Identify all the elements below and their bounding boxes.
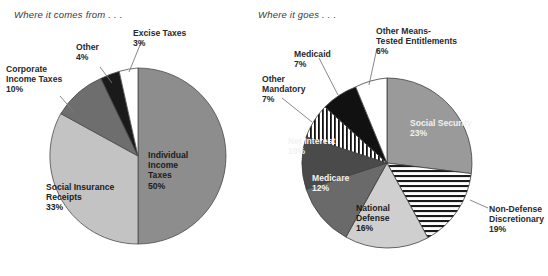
revenue-panel: Where it comes from . . . Corporate Inco… bbox=[0, 0, 274, 276]
revenue-label-other: Other 4% bbox=[76, 42, 99, 62]
spending-leader-non-defense bbox=[470, 200, 488, 208]
spending-label-other-mandatory: Other Mandatory 7% bbox=[262, 74, 305, 105]
spending-label-medicare: Medicare 12% bbox=[312, 173, 349, 193]
spending-label-medicaid: Medicaid 7% bbox=[294, 49, 331, 69]
spending-label-social-security: Social Security 23% bbox=[410, 118, 472, 138]
spending-label-national-defense: National Defense 16% bbox=[356, 203, 390, 234]
spending-panel: Where it goes . . . bbox=[274, 0, 548, 276]
spending-label-net-interest: Net Interest 10% bbox=[288, 136, 335, 156]
revenue-label-corporate-income-taxes: Corporate Income Taxes 10% bbox=[6, 64, 62, 95]
revenue-label-individual-income-taxes: Individual Income Taxes 50% bbox=[148, 150, 188, 191]
spending-label-other-means-tested-entitlements: Other Means- Tested Entitlements 6% bbox=[376, 26, 457, 57]
revenue-label-excise-taxes: Excise Taxes 3% bbox=[133, 28, 186, 48]
revenue-label-social-insurance-receipts: Social Insurance Receipts 33% bbox=[46, 182, 114, 213]
spending-label-non-defense-discretionary: Non-Defense Discretionary 19% bbox=[489, 204, 544, 235]
